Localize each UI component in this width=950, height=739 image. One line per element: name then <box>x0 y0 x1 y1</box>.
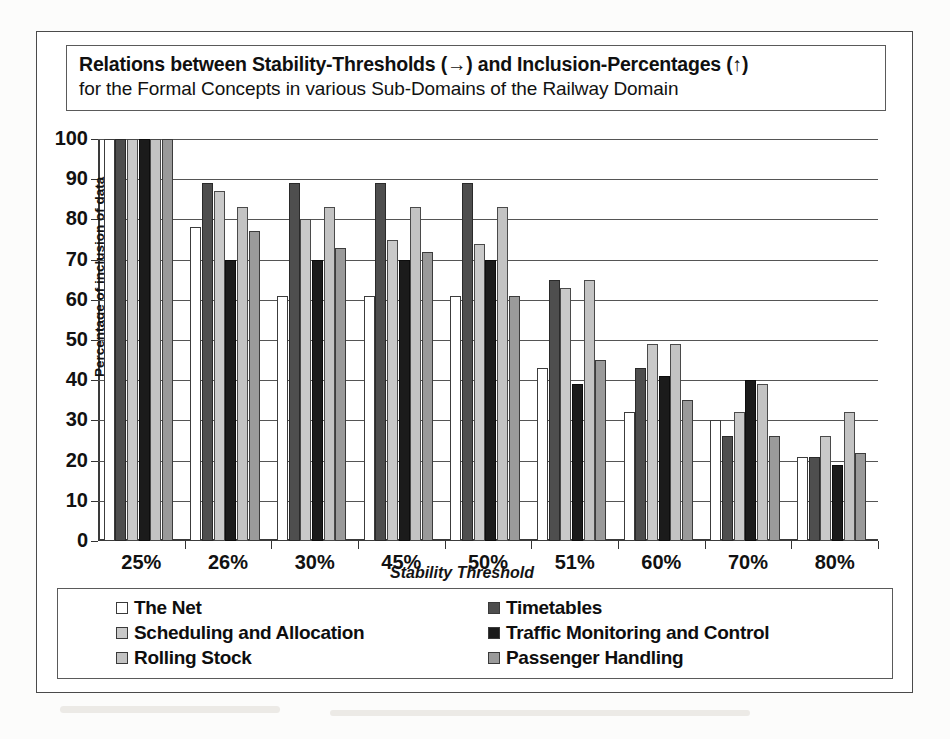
bar <box>832 465 843 541</box>
chart-title-line-2: for the Formal Concepts in various Sub-D… <box>79 78 875 101</box>
bar <box>722 436 733 541</box>
bar <box>312 260 323 541</box>
bar-group <box>277 139 347 541</box>
legend-item-label: Timetables <box>506 597 602 619</box>
bar <box>450 296 461 541</box>
y-axis-tick-label: 10 <box>66 489 88 512</box>
bar <box>549 280 560 541</box>
bar <box>324 207 335 541</box>
x-axis-tick <box>705 541 706 549</box>
scan-artifact <box>330 710 750 716</box>
bar <box>682 400 693 541</box>
bar <box>375 183 386 541</box>
legend-item[interactable]: The Net <box>58 597 488 619</box>
y-axis-tick <box>91 139 98 140</box>
legend-item[interactable]: Rolling Stock <box>58 647 488 669</box>
bar <box>757 384 768 541</box>
bar-group <box>104 139 174 541</box>
y-axis-tick-label: 90 <box>66 167 88 190</box>
legend-item[interactable]: Timetables <box>488 597 602 619</box>
bar <box>809 457 820 541</box>
legend-item-label: Scheduling and Allocation <box>134 622 364 644</box>
legend-row: Scheduling and AllocationTraffic Monitor… <box>58 620 892 645</box>
bar <box>497 207 508 541</box>
chart-title-line-1: Relations between Stability-Thresholds (… <box>79 53 875 76</box>
legend-swatch-scheduling-and-allocation <box>116 627 128 639</box>
x-axis-tick-label: 30% <box>295 551 335 574</box>
legend-item[interactable]: Scheduling and Allocation <box>58 622 488 644</box>
bar-group <box>364 139 434 541</box>
x-axis-tick <box>531 541 532 549</box>
bar-group <box>190 139 260 541</box>
y-axis-tick-label: 100 <box>55 127 88 150</box>
bar <box>214 191 225 541</box>
bar <box>364 296 375 541</box>
bar <box>560 288 571 541</box>
bar <box>399 260 410 541</box>
legend-item[interactable]: Traffic Monitoring and Control <box>488 622 769 644</box>
y-axis-tick-label: 70 <box>66 248 88 271</box>
bar <box>289 183 300 541</box>
y-axis-tick-label: 30 <box>66 408 88 431</box>
y-axis-tick-label: 50 <box>66 328 88 351</box>
y-axis-tick-label: 60 <box>66 288 88 311</box>
x-axis-tick-label: 80% <box>815 551 855 574</box>
legend-swatch-timetables <box>488 602 500 614</box>
bar <box>635 368 646 541</box>
y-axis-tick-label: 0 <box>77 529 88 552</box>
bar <box>584 280 595 541</box>
bar <box>225 260 236 541</box>
bar <box>745 380 756 541</box>
x-axis-tick <box>185 541 186 549</box>
legend-item-label: Passenger Handling <box>506 647 683 669</box>
bar <box>422 252 433 541</box>
x-axis-tick <box>618 541 619 549</box>
legend-swatch-rolling-stock <box>116 652 128 664</box>
x-axis-tick-label: 25% <box>121 551 161 574</box>
bar <box>797 457 808 541</box>
bar-group <box>624 139 694 541</box>
x-axis-tick-label: 60% <box>641 551 681 574</box>
x-axis-tick-label: 26% <box>208 551 248 574</box>
legend-item-label: The Net <box>134 597 202 619</box>
legend-item-label: Rolling Stock <box>134 647 252 669</box>
chart-title-box: Relations between Stability-Thresholds (… <box>66 45 886 111</box>
bar-group <box>450 139 520 541</box>
y-axis-tick-labels: 0102030405060708090100 <box>42 139 88 541</box>
bar <box>335 248 346 541</box>
legend-swatch-traffic-monitoring-and-control <box>488 627 500 639</box>
y-axis-tick-label: 80 <box>66 207 88 230</box>
bar-group <box>710 139 780 541</box>
bar <box>659 376 670 541</box>
bar <box>387 240 398 542</box>
bar <box>820 436 831 541</box>
y-axis-tick-label: 40 <box>66 368 88 391</box>
bar <box>647 344 658 541</box>
legend-item[interactable]: Passenger Handling <box>488 647 683 669</box>
plot-area: 0102030405060708090100 Percentage of inc… <box>98 139 878 541</box>
scan-artifact <box>60 706 280 713</box>
bar <box>844 412 855 541</box>
bar <box>277 296 288 541</box>
bar <box>670 344 681 541</box>
bar <box>710 420 721 541</box>
y-axis-tick <box>91 420 98 421</box>
bar <box>485 260 496 541</box>
y-axis-tick <box>91 380 98 381</box>
bar-group <box>537 139 607 541</box>
y-axis-tick <box>91 461 98 462</box>
x-axis-tick <box>445 541 446 549</box>
bar <box>855 453 866 541</box>
y-axis-tick <box>91 541 98 542</box>
bar <box>127 139 138 541</box>
bar <box>509 296 520 541</box>
y-axis-tick <box>91 501 98 502</box>
bar <box>300 219 311 541</box>
bar <box>162 139 173 541</box>
x-axis-tick <box>271 541 272 549</box>
x-axis-tick-label: 51% <box>555 551 595 574</box>
legend-swatch-passenger-handling <box>488 652 500 664</box>
x-axis-tick <box>358 541 359 549</box>
bar <box>572 384 583 541</box>
chart-container: Relations between Stability-Thresholds (… <box>36 31 913 693</box>
